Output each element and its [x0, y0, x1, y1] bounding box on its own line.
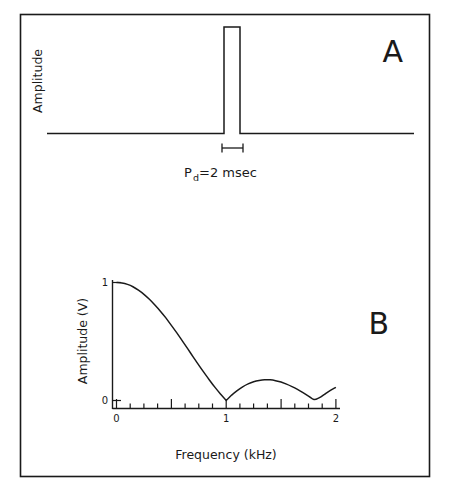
panel-a-ylabel: Amplitude: [30, 49, 45, 113]
x-tick-label-2: 2: [333, 413, 339, 424]
panel-a: A Amplitude P d =2 msec: [30, 27, 414, 183]
panel-a-letter: A: [382, 34, 403, 69]
panel-b: B Amplitude (V) Frequency (kHz) 1 0: [75, 277, 390, 462]
y-tick-label-1: 1: [102, 277, 108, 288]
x-tick-label-0: 0: [113, 413, 119, 424]
pulse-duration-annotation: P d =2 msec: [184, 165, 257, 183]
pulse-duration-prefix: P: [184, 165, 192, 180]
spectrum-sinc-trace: [117, 283, 336, 401]
pulse-waveform-trace: [47, 27, 414, 134]
panel-b-xlabel: Frequency (kHz): [175, 447, 277, 462]
pulse-width-brace: [222, 144, 243, 153]
pulse-duration-value: =2 msec: [199, 165, 257, 180]
y-axis-ticks: [113, 283, 122, 401]
figure-border: [21, 15, 430, 477]
figure-canvas: A Amplitude P d =2 msec B Amplitude (V) …: [0, 0, 449, 491]
y-tick-label-0: 0: [102, 395, 108, 406]
panel-b-letter: B: [368, 306, 389, 341]
figure-root: A Amplitude P d =2 msec B Amplitude (V) …: [0, 0, 449, 491]
x-tick-label-1: 1: [223, 413, 229, 424]
panel-b-ylabel: Amplitude (V): [75, 298, 90, 384]
